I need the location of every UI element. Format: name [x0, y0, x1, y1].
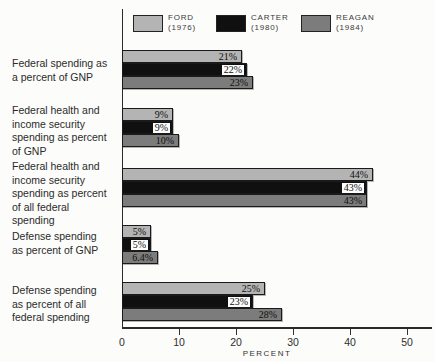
bar-value-label: 9%: [155, 109, 168, 121]
bar-value-label: 22%: [222, 65, 244, 75]
bar-value-label: 9%: [153, 123, 170, 133]
bar-carter: 43%: [122, 181, 367, 194]
legend-label-ford: FORD: [168, 13, 196, 23]
x-axis-tick: [236, 329, 237, 335]
legend-year-ford: (1976): [168, 23, 196, 33]
x-axis-title: PERCENT: [227, 349, 307, 358]
bar-carter: 22%: [122, 63, 247, 76]
bar-chart-figure: FORD (1976) CARTER (1980) REAGAN (1984) …: [0, 0, 435, 362]
bar-value-label: 44%: [350, 169, 368, 181]
bar-reagan: 28%: [122, 308, 282, 321]
legend-year-carter: (1980): [251, 23, 289, 33]
category-label: Defense spending as percent of GNP: [12, 230, 120, 257]
bar-value-label: 21%: [219, 51, 237, 63]
bar-reagan: 10%: [122, 134, 179, 147]
bar-value-label: 43%: [344, 195, 362, 207]
bar-value-label: 28%: [259, 309, 277, 321]
bar-reagan: 43%: [122, 194, 367, 207]
bar-carter: 5%: [122, 238, 151, 251]
x-axis-tick: [293, 329, 294, 335]
bar-value-label: 5%: [133, 226, 146, 238]
x-axis-line: [122, 327, 432, 329]
x-axis-tick: [407, 329, 408, 335]
legend-item-reagan: REAGAN (1984): [301, 13, 375, 33]
legend-label-carter: CARTER: [251, 13, 289, 23]
legend-swatch-ford: [133, 15, 163, 32]
bar-reagan: 6.4%: [122, 251, 158, 264]
legend-item-ford: FORD (1976): [133, 13, 196, 33]
bar-ford: 44%: [122, 168, 373, 181]
x-axis-tick-label: 30: [281, 336, 305, 348]
x-axis-tick-label: 20: [224, 336, 248, 348]
x-axis-tick-label: 0: [110, 336, 134, 348]
bar-carter: 9%: [122, 121, 173, 134]
category-label: Federal health and income security spend…: [12, 160, 120, 228]
x-axis-tick-label: 40: [338, 336, 362, 348]
bar-value-label: 25%: [242, 283, 260, 295]
category-label: Defense spending as percent of all feder…: [12, 284, 120, 325]
bar-value-label: 23%: [228, 297, 250, 307]
bar-ford: 21%: [122, 50, 242, 63]
bar-value-label: 43%: [342, 183, 364, 193]
bar-value-label: 23%: [230, 77, 248, 89]
x-axis-tick: [179, 329, 180, 335]
bar-value-label: 10%: [156, 135, 174, 147]
bar-ford: 5%: [122, 225, 151, 238]
legend-swatch-carter: [216, 15, 246, 32]
x-axis-tick-label: 50: [395, 336, 419, 348]
bar-value-label: 5%: [131, 240, 148, 250]
legend-label-reagan: REAGAN: [336, 13, 375, 23]
x-axis-tick: [350, 329, 351, 335]
category-label: Federal spending as a percent of GNP: [12, 57, 120, 84]
bar-ford: 9%: [122, 108, 173, 121]
bar-ford: 25%: [122, 282, 265, 295]
legend-swatch-reagan: [301, 15, 331, 32]
bar-carter: 23%: [122, 295, 253, 308]
x-axis-tick-label: 10: [167, 336, 191, 348]
legend-item-carter: CARTER (1980): [216, 13, 289, 33]
category-label: Federal health and income security spend…: [12, 104, 120, 158]
bar-value-label: 6.4%: [132, 252, 153, 264]
legend-year-reagan: (1984): [336, 23, 375, 33]
bar-reagan: 23%: [122, 76, 253, 89]
